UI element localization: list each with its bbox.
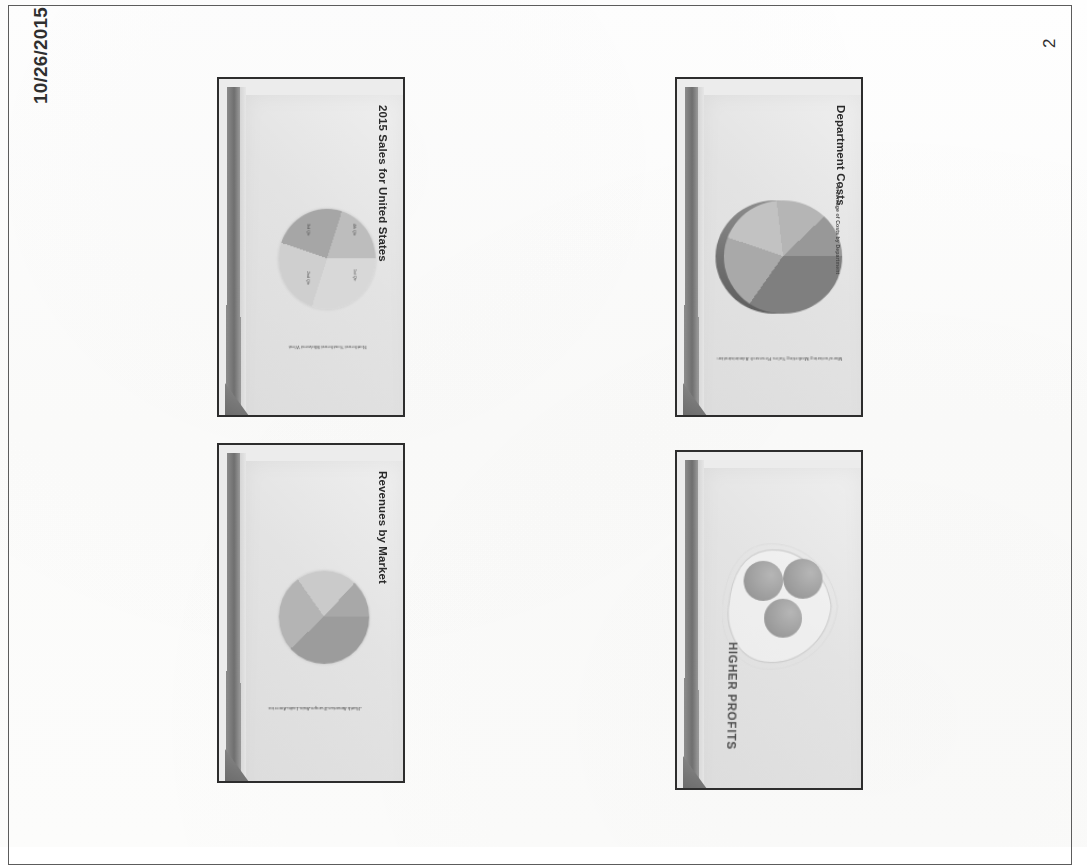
pie-legend-label: North America Europe Asia Latin America [268, 706, 360, 712]
page-number: 2 [1040, 39, 1060, 48]
slide-3d-body: HIGHER PROFITS [677, 452, 863, 790]
slide-subtitle: Percentage of Costs by Department [835, 183, 841, 274]
slide-thumbnail-2015-sales-united-states[interactable]: 1st Qtr 2nd Qtr 3rd Qtr 4th Qtr Northeas… [217, 77, 405, 417]
pie-data-label-q4: 4th Qtr [352, 224, 357, 236]
pie-data-label-q1: 1st Qtr [352, 269, 357, 281]
diagram-caption: HIGHER PROFITS [725, 642, 739, 750]
slide-thumbnail-higher-profits[interactable]: HIGHER PROFITS [675, 450, 863, 790]
slide-title: 2015 Sales for United States [377, 105, 389, 262]
pie-3d-top-face [723, 200, 843, 313]
diagram-area: HIGHER PROFITS [694, 468, 863, 790]
pie-legend-label: Manufacturing Marketing Sales Research A… [717, 356, 842, 362]
pie-data-label-q2: 2nd Qtr [305, 271, 310, 284]
pie-legend-label: Northeast Southeast Midwest West [288, 345, 366, 351]
diagram-circle-1 [783, 559, 823, 599]
slide-title: Revenues by Market [377, 471, 389, 584]
slide-3d-body: Manufacturing Marketing Sales Research A… [677, 79, 863, 417]
diagram-circle-2 [764, 599, 802, 638]
slide-thumbnail-department-costs[interactable]: Manufacturing Marketing Sales Research A… [675, 77, 863, 417]
slide-3d-body: North America Europe Asia Latin America … [219, 445, 405, 783]
slide-thumbnail-revenues-by-market[interactable]: North America Europe Asia Latin America … [217, 443, 405, 783]
pie-chart [278, 209, 377, 309]
pie-data-label-q3: 3rd Qtr [306, 224, 311, 236]
slide-3d-body: 1st Qtr 2nd Qtr 3rd Qtr 4th Qtr Northeas… [219, 79, 405, 417]
pie-chart [278, 571, 370, 664]
diagram-circle-3 [743, 561, 783, 601]
pie-chart-3d [723, 200, 843, 313]
page-border-rule [8, 5, 1072, 865]
header-date: 10/26/2015 [30, 7, 52, 104]
